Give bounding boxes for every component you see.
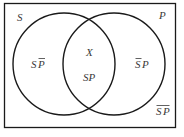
region-not-s-p: S P <box>135 58 149 70</box>
circle-p <box>63 13 165 115</box>
region-x-mark: X <box>85 46 94 58</box>
region-not-s-p-p: P <box>141 58 149 70</box>
venn-diagram: S P S P X SP S P S P <box>0 0 184 137</box>
label-p: P <box>158 9 166 21</box>
region-not-s-not-p-s: S <box>156 105 162 117</box>
region-s-not-p-p: P <box>37 58 45 70</box>
region-s-and-p: SP <box>83 71 96 83</box>
region-not-s-not-p-p: P <box>162 105 170 117</box>
label-s: S <box>17 11 23 23</box>
region-not-s-p-s: S <box>135 58 141 70</box>
circle-s <box>13 13 115 115</box>
region-s-not-p-s: S <box>31 58 37 70</box>
region-s-not-p: S P <box>31 58 45 70</box>
region-not-s-not-p: S P <box>156 105 170 117</box>
